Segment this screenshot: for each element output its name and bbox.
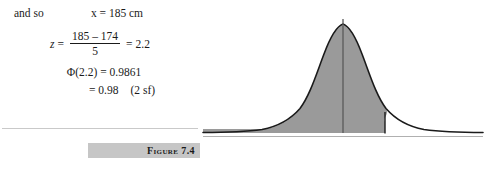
shaded-area-region bbox=[203, 25, 387, 133]
rounded-answer-value: = 0.98 bbox=[45, 84, 119, 96]
figure-caption-label: Figure 7.4 bbox=[88, 143, 195, 158]
standardisation-fraction: 185 – 174 5 bbox=[70, 30, 120, 58]
worked-solution-panel: x = 185 cm and so z = 185 – 174 5 = 2.2 … bbox=[0, 0, 205, 183]
equation-z-standardisation: z = 185 – 174 5 = 2.2 bbox=[0, 30, 200, 58]
z-equals-sign: = bbox=[55, 38, 68, 50]
caption-divider-rule bbox=[2, 128, 198, 129]
significant-figures-note: (2 sf) bbox=[118, 84, 155, 96]
fraction-denominator: 5 bbox=[90, 44, 100, 57]
normal-curve-figure: μ = 174 z = 0 x = 185 z = 2.2 bbox=[200, 0, 486, 183]
equation-phi-text: Φ(2.2) = 0.9861 bbox=[59, 66, 141, 78]
z-result-value: 2.2 bbox=[136, 38, 150, 50]
and-so-label: and so bbox=[14, 7, 44, 19]
equation-phi-lookup: Φ(2.2) = 0.9861 bbox=[0, 66, 200, 78]
equation-rounded-answer: = 0.98(2 sf) bbox=[0, 84, 200, 96]
equation-x-value-text: x = 185 cm bbox=[57, 7, 143, 19]
fraction-numerator: 185 – 174 bbox=[70, 30, 120, 43]
shaded-area-right-edge bbox=[360, 60, 385, 133]
normal-distribution-chart bbox=[200, 0, 486, 145]
z-result-equals-sign: = bbox=[123, 38, 136, 50]
